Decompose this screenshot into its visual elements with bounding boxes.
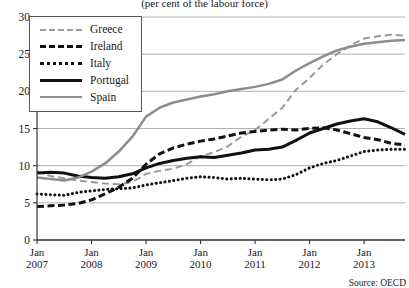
x-tick-label-year: 2009 [135, 258, 158, 270]
x-tick-label-year: 2011 [244, 258, 266, 270]
legend-item-spain: Spain [30, 89, 141, 106]
legend-label-greece: Greece [90, 24, 123, 35]
legend-swatch-portugal [38, 75, 84, 86]
y-tick-label: 5 [24, 197, 30, 209]
legend-item-portugal: Portugal [30, 72, 141, 89]
y-tick-label: 15 [19, 123, 31, 135]
x-tick-label-month: Jan [84, 246, 99, 258]
chart-legend: Greece Ireland Italy Portugal Spain [29, 16, 142, 112]
legend-swatch-ireland [38, 41, 84, 52]
x-tick-label-month: Jan [248, 246, 263, 258]
legend-swatch-greece [38, 24, 84, 35]
legend-swatch-italy [38, 58, 84, 69]
x-tick-label-year: 2007 [26, 258, 49, 270]
x-axis-tick-marks [37, 240, 364, 244]
legend-label-spain: Spain [90, 92, 116, 103]
x-tick-label-month: Jan [139, 246, 154, 258]
y-tick-label: 10 [19, 160, 31, 172]
x-tick-label-year: 2013 [353, 258, 376, 270]
x-tick-label-month: Jan [357, 246, 372, 258]
legend-label-portugal: Portugal [90, 75, 129, 86]
series-line-ireland [37, 128, 405, 207]
legend-item-italy: Italy [30, 55, 141, 72]
x-tick-label-month: Jan [30, 246, 45, 258]
x-axis-tick-labels: Jan2007Jan2008Jan2009Jan2010Jan2011Jan20… [26, 246, 376, 270]
x-tick-label-year: 2010 [190, 258, 213, 270]
x-tick-label-month: Jan [302, 246, 317, 258]
source-note: Source: OECD [349, 278, 406, 288]
x-tick-label-year: 2012 [299, 258, 321, 270]
x-tick-label-month: Jan [193, 246, 208, 258]
legend-item-greece: Greece [30, 21, 141, 38]
legend-label-italy: Italy [90, 58, 111, 69]
x-tick-label-year: 2008 [81, 258, 104, 270]
legend-swatch-spain [38, 92, 84, 103]
legend-label-ireland: Ireland [90, 41, 123, 52]
unemployment-line-chart-figure: (per cent of the labour force) 051015202… [0, 0, 409, 288]
legend-item-ireland: Ireland [30, 38, 141, 55]
y-tick-label: 0 [24, 234, 30, 246]
